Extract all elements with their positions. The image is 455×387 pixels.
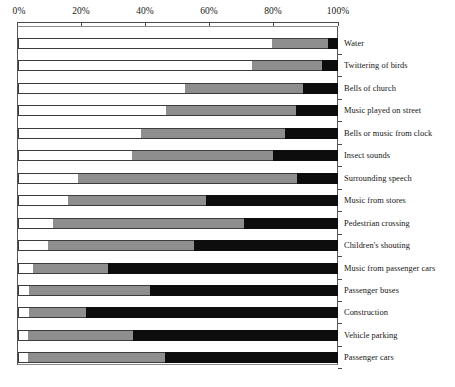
bar-segment-series-1 [18,218,53,229]
bar-segment-series-2 [29,285,150,296]
category-label: Water [344,39,364,49]
x-tick-label-40: 40% [136,6,154,17]
x-tick-label-100: 100% [327,6,350,17]
row-tick-mark [338,121,342,122]
x-axis-line [17,22,338,23]
bar-segment-series-1 [18,128,141,139]
bar-row [18,195,338,206]
row-tick-mark [338,166,342,167]
bar-segment-series-3 [206,195,338,206]
row-tick-mark [338,323,342,324]
bar-segment-series-3 [297,173,338,184]
category-labels: WaterTwittering of birdsBells of churchM… [344,27,455,364]
bar-segment-series-2 [185,83,303,94]
row-tick-mark [338,279,342,280]
row-tick-mark [338,189,342,190]
category-label: Passenger cars [344,353,394,363]
bar-segment-series-2 [78,173,297,184]
bar-segment-series-2 [29,307,86,318]
bar-segment-series-1 [18,173,78,184]
bar-segment-series-1 [18,352,28,363]
bar-segment-series-3 [150,285,338,296]
x-tick-label-80: 80% [264,6,282,17]
bar-segment-series-1 [18,195,68,206]
bar-rows [18,27,338,364]
x-tick-label-60: 60% [200,6,218,17]
row-tick-mark [338,234,342,235]
category-label: Pedestrian crossing [344,219,410,229]
bar-segment-series-1 [18,38,272,49]
bar-row [18,60,338,71]
bar-row [18,83,338,94]
stacked-bar-chart: 0% 20% 40% 60% 80% 100% WaterTwittering … [0,0,455,387]
bar-segment-series-2 [28,330,133,341]
bar-segment-series-2 [68,195,207,206]
bar-segment-series-2 [252,60,322,71]
category-label: Construction [344,308,388,318]
x-tick-label-0: 0% [13,6,26,17]
x-axis-tick-labels: 0% 20% 40% 60% 80% 100% [0,6,455,20]
bar-segment-series-1 [18,307,29,318]
category-label: Music played on street [344,106,421,116]
bar-segment-series-3 [273,150,338,161]
bar-segment-series-1 [18,240,48,251]
bar-segment-series-2 [166,105,297,116]
row-tick-mark [338,144,342,145]
bar-segment-series-3 [244,218,338,229]
category-label: Children's shouting [344,241,410,251]
bar-row [18,105,338,116]
row-tick-mark [338,301,342,302]
bar-segment-series-1 [18,263,33,274]
bar-segment-series-2 [53,218,244,229]
bar-segment-series-2 [33,263,108,274]
row-tick-mark [338,211,342,212]
bar-segment-series-3 [303,83,338,94]
category-label: Music from stores [344,196,406,206]
bar-segment-series-2 [272,38,328,49]
bar-segment-series-3 [296,105,338,116]
bar-segment-series-1 [18,285,29,296]
bar-row [18,150,338,161]
row-tick-mark [338,54,342,55]
bar-row [18,173,338,184]
bar-segment-series-3 [133,330,338,341]
bar-segment-series-1 [18,105,166,116]
bar-segment-series-1 [18,150,132,161]
row-tick-mark [338,99,342,100]
bar-row [18,285,338,296]
bar-row [18,330,338,341]
bar-segment-series-1 [18,83,185,94]
bar-segment-series-1 [18,330,28,341]
bar-segment-series-3 [322,60,338,71]
bar-row [18,307,338,318]
category-label: Twittering of birds [344,61,408,71]
bar-row [18,218,338,229]
bar-row [18,128,338,139]
category-label: Insect sounds [344,151,390,161]
bar-segment-series-2 [48,240,195,251]
bar-segment-series-2 [28,352,165,363]
bar-row [18,240,338,251]
bar-segment-series-3 [165,352,338,363]
bar-segment-series-1 [18,60,252,71]
bar-segment-series-3 [285,128,338,139]
category-label: Music from passenger cars [344,264,435,274]
bar-segment-series-2 [132,150,273,161]
x-tick-mark-100 [338,22,339,26]
row-tick-mark [338,256,342,257]
category-label: Vehicle parking [344,331,398,341]
category-label: Bells of church [344,84,396,94]
bar-segment-series-3 [86,307,338,318]
row-tick-mark [338,76,342,77]
x-tick-label-20: 20% [72,6,90,17]
row-tick-mark [338,368,342,369]
category-label: Passenger buses [344,286,399,296]
bar-row [18,352,338,363]
bar-row [18,38,338,49]
bar-segment-series-3 [194,240,338,251]
bar-row [18,263,338,274]
bar-segment-series-3 [108,263,338,274]
bar-segment-series-3 [328,38,338,49]
category-label: Surrounding speech [344,174,412,184]
row-tick-mark [338,346,342,347]
